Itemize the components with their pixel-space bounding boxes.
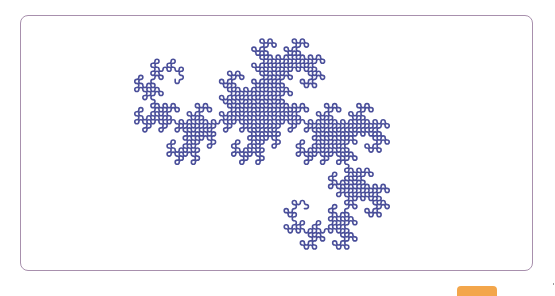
action-button[interactable] <box>457 286 497 296</box>
scroll-indicator <box>553 283 554 285</box>
dragon-curve-path <box>135 39 389 249</box>
